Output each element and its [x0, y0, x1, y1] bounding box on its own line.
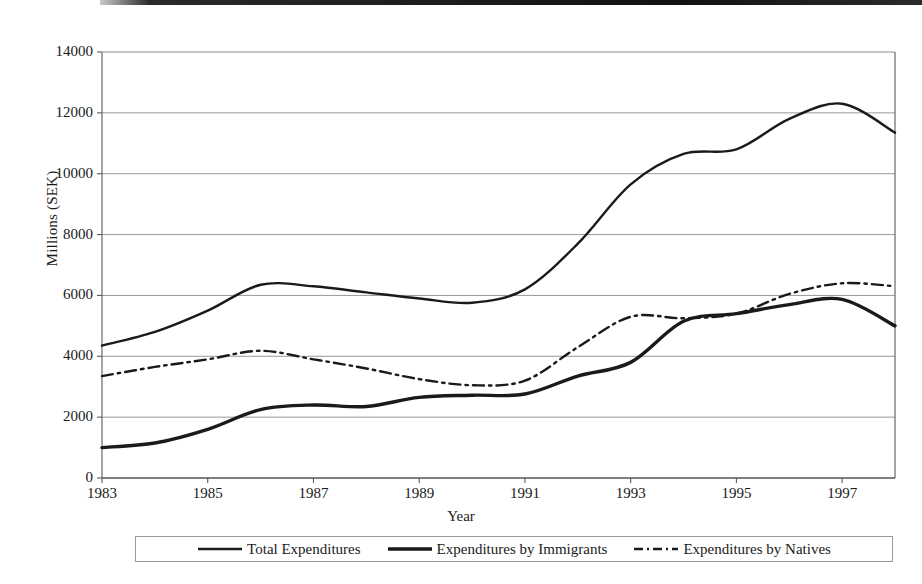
legend-label: Expenditures by Immigrants [437, 541, 608, 558]
legend-entry: Total Expenditures [197, 541, 361, 558]
gridlines [102, 52, 895, 478]
line-chart-figure: Millions (SEK) Year 02000400060008000100… [0, 0, 922, 584]
y-axis-ticks [97, 52, 102, 478]
plot-frame [102, 52, 895, 478]
legend-line-natives-icon [633, 543, 679, 555]
plot-area [0, 0, 922, 584]
series-line-1 [102, 298, 895, 447]
x-axis-ticks [102, 478, 842, 483]
legend-entry: Expenditures by Natives [633, 541, 830, 558]
chart-legend: Total ExpendituresExpenditures by Immigr… [135, 536, 893, 562]
legend-line-immigrants-icon [387, 543, 433, 555]
legend-label: Expenditures by Natives [683, 541, 830, 558]
series-line-0 [102, 103, 895, 345]
legend-entry: Expenditures by Immigrants [387, 541, 608, 558]
legend-line-total-icon [197, 543, 243, 555]
series-lines [102, 103, 895, 447]
legend-label: Total Expenditures [247, 541, 361, 558]
